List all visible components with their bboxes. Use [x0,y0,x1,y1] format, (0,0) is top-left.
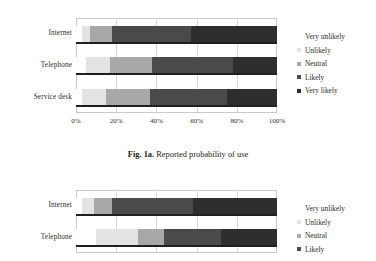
legend-item[interactable]: Very likely [297,84,345,98]
x-tick-label: 60% [190,117,203,125]
legend-swatch-icon [297,89,301,93]
legend-label: Likely [305,74,324,81]
legend-label: Likely [305,246,324,253]
legend-label: Neutral [305,60,327,67]
legend-swatch-icon [297,62,301,66]
legend-label: Neutral [305,232,327,239]
legend-label: Very unlikely [305,205,345,212]
category-label-internet: Internet [48,201,72,209]
legend-item[interactable]: Neutral [297,229,345,243]
legend-item[interactable]: Unlikely [297,44,345,58]
x-tick-label: 80% [230,117,243,125]
legend-swatch-icon [297,48,301,52]
legend-item[interactable]: Likely [297,243,345,257]
x-tick-label: 100% [269,117,285,125]
legend-label: Unlikely [305,219,331,226]
legend-1a: Very unlikelyUnlikelyNeutralLikelyVery l… [297,30,345,98]
legend-item[interactable]: Very unlikely [297,202,345,216]
legend-swatch-icon [297,247,301,251]
legend-item[interactable]: Likely [297,71,345,85]
legend-swatch-icon [297,207,301,211]
legend-swatch-icon [297,75,301,79]
caption-text-1a: Reported probability of use [154,150,248,159]
legend-label: Unlikely [305,47,331,54]
x-tick-label: 0% [71,117,80,125]
legend-item[interactable]: Neutral [297,57,345,71]
x-tick-label: 40% [150,117,163,125]
legend-swatch-icon [297,234,301,238]
legend-item[interactable]: Unlikely [297,216,345,230]
figure-caption-1a: Fig. 1a. Reported probability of use [0,150,376,159]
x-tick-label: 20% [110,117,123,125]
legend-label: Very likely [305,87,338,94]
legend-1b: Very unlikelyUnlikelyNeutralLikely [297,202,345,256]
legend-swatch-icon [297,35,301,39]
category-label-telephone: Telephone [41,233,72,241]
caption-label-1a: Fig. 1a. [128,150,154,159]
figure-1b: InternetTelephone Very unlikelyUnlikelyN… [0,176,376,261]
legend-swatch-icon [297,220,301,224]
legend-label: Very unlikely [305,33,345,40]
figure-1a: InternetTelephoneService desk 0%20%40%60… [0,0,376,165]
legend-item[interactable]: Very unlikely [297,30,345,44]
